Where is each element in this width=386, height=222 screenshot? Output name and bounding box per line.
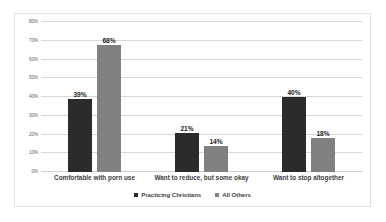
y-axis-tick-label: 40%	[29, 94, 38, 99]
bar-value-label: 40%	[287, 89, 300, 96]
bar-value-label: 21%	[180, 125, 193, 132]
legend-swatch-icon	[215, 193, 219, 197]
y-axis-tick-label: 20%	[29, 131, 38, 136]
legend-label: Practicing Christians	[141, 192, 201, 198]
y-axis-tick-label: 30%	[29, 112, 38, 117]
legend-item[interactable]: Practicing Christians	[134, 192, 201, 198]
bar-group: 40%18%	[255, 22, 362, 172]
bar-value-label: 39%	[73, 91, 86, 98]
bar[interactable]	[97, 45, 121, 173]
bar-chart: 0%10%20%30%40%50%60%70%80% 39%68%21%14%4…	[14, 13, 371, 207]
category-axis-label: Want to reduce, but some okay	[148, 174, 255, 181]
category-axis-label: Comfortable with porn use	[41, 174, 148, 181]
bar[interactable]	[68, 99, 92, 172]
y-axis-tick-label: 10%	[29, 150, 38, 155]
bars-layer: 39%68%21%14%40%18%	[41, 22, 362, 172]
legend-label: All Others	[222, 192, 251, 198]
bar-column: 18%	[311, 22, 335, 172]
legend-item[interactable]: All Others	[215, 192, 251, 198]
y-axis-tick-label: 60%	[29, 56, 38, 61]
bar-column: 39%	[68, 22, 92, 172]
bar[interactable]	[311, 138, 335, 172]
y-axis-tick-label: 80%	[29, 19, 38, 24]
legend-swatch-icon	[134, 193, 138, 197]
y-axis-tick-label: 70%	[29, 37, 38, 42]
category-axis-label: Want to stop altogether	[255, 174, 362, 181]
bar-column: 21%	[175, 22, 199, 172]
bar-value-label: 14%	[209, 138, 222, 145]
bar[interactable]	[204, 146, 228, 172]
bar[interactable]	[175, 133, 199, 172]
bar-column: 68%	[97, 22, 121, 172]
bar-value-label: 18%	[316, 130, 329, 137]
chart-legend: Practicing ChristiansAll Others	[15, 192, 370, 198]
category-axis: Comfortable with porn useWant to reduce,…	[41, 174, 362, 181]
bar-group: 39%68%	[41, 22, 148, 172]
bar-value-label: 68%	[102, 37, 115, 44]
bar-group: 21%14%	[148, 22, 255, 172]
bar-column: 14%	[204, 22, 228, 172]
bar[interactable]	[282, 97, 306, 172]
bar-column: 40%	[282, 22, 306, 172]
y-axis-tick-label: 0%	[32, 169, 38, 174]
plot-area: 0%10%20%30%40%50%60%70%80% 39%68%21%14%4…	[41, 22, 362, 172]
y-axis-tick-label: 50%	[29, 75, 38, 80]
